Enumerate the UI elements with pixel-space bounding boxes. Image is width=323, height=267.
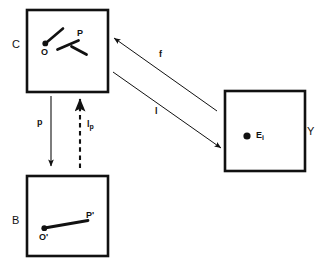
point-label-o: O [41, 48, 48, 57]
point-label-e-i: Ei [256, 131, 264, 141]
box-c-frame [27, 10, 108, 92]
box-b-point-o-prime-dot [41, 225, 47, 231]
point-label-p-prime: P' [86, 211, 94, 220]
box-b-frame [27, 176, 108, 256]
point-label-p: P [77, 29, 83, 38]
arrow-f-line [114, 38, 217, 111]
box-y-frame [225, 91, 305, 171]
box-b-label: B [12, 215, 19, 226]
arrow-l-line [113, 72, 221, 148]
box-c-label: C [12, 39, 20, 50]
diagram-svg [0, 0, 323, 267]
arrow-label-p: p [37, 118, 43, 127]
arrow-label-lp: lp [87, 120, 94, 130]
box-c-point-o-dot [42, 41, 48, 47]
diagram-canvas: C B Y O P O' P' Ei p lp f l [0, 0, 323, 267]
arrow-label-f: f [159, 50, 162, 59]
point-label-o-prime: O' [39, 233, 48, 242]
point-label-e-subscript: i [262, 134, 264, 141]
box-y-point-e-dot [243, 132, 250, 139]
arrow-label-l: l [155, 107, 158, 116]
arrow-label-lp-subscript: p [90, 123, 94, 130]
box-y-label: Y [307, 126, 314, 137]
